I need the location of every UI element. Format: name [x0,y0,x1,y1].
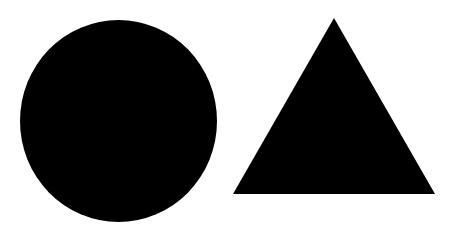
black-circle-shape [20,20,217,222]
shapes-canvas [0,0,455,231]
